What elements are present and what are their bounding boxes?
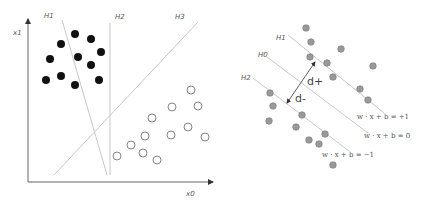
filled-point [95,76,103,84]
data-point [365,97,372,104]
data-point [357,86,364,93]
data-point [303,25,310,32]
open-point [184,123,192,131]
open-point [153,156,161,164]
open-point [194,102,202,110]
right-points [266,25,377,169]
data-point [266,118,273,125]
open-point [201,133,209,141]
filled-point [87,35,95,43]
equation-plus-one: w · x + b = +1 [357,113,409,121]
open-point [167,131,175,139]
filled-point [42,76,50,84]
h2-label: H2 [115,13,125,21]
h1-label: H1 [44,12,54,20]
open-point [139,149,147,157]
hyperplane-h1 [62,20,107,175]
filled-point [57,40,65,48]
x-axis-label: x0 [185,190,195,198]
data-point [316,141,323,148]
h3-label: H3 [175,13,185,21]
data-point [370,63,377,70]
filled-point [46,55,54,63]
open-point [127,141,135,149]
h1-label-right: H1 [276,34,286,42]
filled-point [57,72,65,80]
filled-point [71,30,79,38]
h2-label-right: H2 [241,74,251,82]
filled-point [97,48,105,56]
data-point [267,90,274,97]
equation-zero: w · x + b = 0 [364,132,410,140]
equation-minus-one: w · x + b = −1 [322,151,374,159]
d-plus-label: d+ [307,75,323,88]
svm-diagram: x1 x0 H1 H2 H3 H1 H0 H2 d+ d- w · x + b … [0,0,421,209]
d-minus-label: d- [295,92,306,105]
open-point [168,103,176,111]
h0-decision-line [267,57,368,133]
filled-point [87,61,95,69]
open-point [141,132,149,140]
data-point [308,39,315,46]
data-point [330,162,337,169]
data-point [306,137,313,144]
h0-label-right: H0 [258,51,268,59]
data-point [324,60,331,67]
data-point [338,46,345,53]
data-point [299,112,306,119]
open-point [148,114,156,122]
data-point [307,54,314,61]
open-point [187,86,195,94]
data-point [330,74,337,81]
data-point [322,131,329,138]
left-panel: x1 x0 H1 H2 H3 [12,12,213,198]
filled-point [71,81,79,89]
right-panel: H1 H0 H2 d+ d- w · x + b = +1 w · x + b … [241,25,410,169]
filled-point [74,53,82,61]
hyperplanes [54,20,198,175]
data-point [270,103,277,110]
hyperplane-h3 [54,22,198,175]
open-point [113,152,121,160]
data-point [293,124,300,131]
y-axis-label: x1 [12,29,22,37]
